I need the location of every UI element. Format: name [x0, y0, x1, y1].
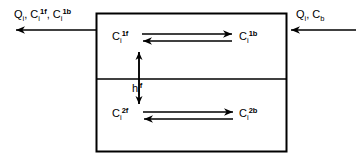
species-label-bottom-free: Ci2f: [112, 108, 128, 119]
diagram-vector-layer: [0, 0, 361, 161]
outflow-c1b-symbol: Ci1b: [53, 8, 71, 20]
species-label-top-free: Ci1f: [112, 31, 128, 42]
outflow-sep2: ,: [47, 8, 53, 20]
inflow-q-symbol: Qi: [296, 8, 306, 20]
c2b-base: Ci2b: [239, 107, 257, 119]
species-label-top-bound: Ci1b: [239, 31, 257, 42]
inflow-cb-symbol: Cb: [312, 8, 324, 20]
species-label-bottom-bound: Ci2b: [239, 108, 257, 119]
c2f-base: Ci2f: [112, 107, 128, 119]
diagram-canvas: Qi, Ci1f, Ci1b Qi, Cb Ci1f Ci1b Ci2f Ci2…: [0, 0, 361, 161]
outflow-stream-label: Qi, Ci1f, Ci1b: [14, 9, 71, 20]
c1b-base: Ci1b: [239, 30, 257, 42]
inflow-stream-label: Qi, Cb: [296, 9, 324, 20]
outflow-c1f-symbol: Ci1f: [30, 8, 46, 20]
transfer-coefficient-label: hif: [132, 83, 142, 94]
c1f-base: Ci1f: [112, 30, 128, 42]
outflow-q-symbol: Qi: [14, 8, 24, 20]
hif-base: hif: [132, 82, 142, 94]
